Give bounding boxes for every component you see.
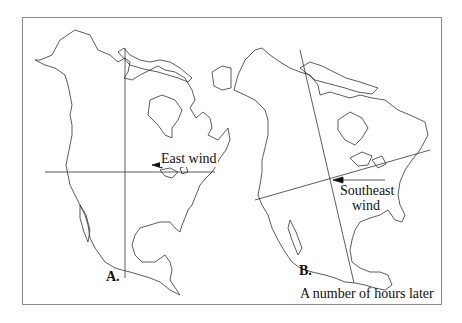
maps-drawing bbox=[0, 0, 462, 323]
map-a-hudson-bay bbox=[148, 95, 182, 138]
map-b-arctic-islands bbox=[300, 62, 378, 94]
map-b-meridian-line bbox=[300, 50, 354, 283]
map-b-wind-label-line2: wind bbox=[352, 198, 380, 214]
map-b-caption: A number of hours later bbox=[300, 286, 434, 302]
map-b-great-lakes bbox=[350, 152, 386, 168]
map-a-greenland-edge bbox=[212, 66, 231, 90]
map-a-panel-label: A. bbox=[106, 269, 120, 285]
map-a-wind-label: East wind bbox=[160, 151, 218, 167]
map-b-wind-label-line1: Southeast bbox=[340, 183, 394, 199]
map-b-panel-label: B. bbox=[299, 263, 312, 279]
map-b-baja bbox=[288, 220, 302, 255]
map-b-hudson-bay bbox=[338, 112, 368, 145]
map-a-baja bbox=[80, 205, 90, 242]
